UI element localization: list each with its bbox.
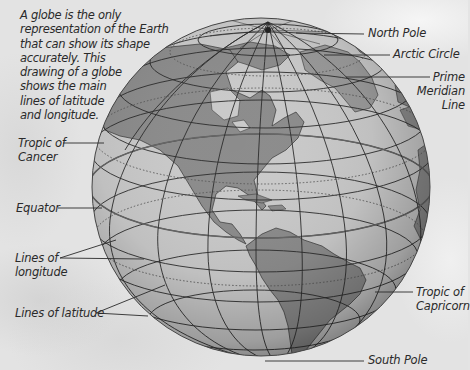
intro-line: A globe is the only <box>20 8 180 22</box>
label-line: longitude <box>15 265 67 279</box>
intro-line: and longitude. <box>20 108 180 122</box>
label-arctic-circle: Arctic Circle <box>393 47 460 61</box>
intro-line: that can show its shape <box>20 37 180 51</box>
intro-line: drawing of a globe <box>20 65 180 79</box>
label-equator: Equator <box>16 201 60 215</box>
label-lines-of-latitude: Lines of latitude <box>15 306 104 320</box>
label-tropic-of-cancer: Tropic of Cancer <box>18 136 66 164</box>
label-line: Line <box>417 98 465 112</box>
label-lines-of-longitude: Lines of longitude <box>15 251 67 279</box>
intro-line: shows the main <box>20 79 180 93</box>
label-north-pole: North Pole <box>368 26 426 40</box>
label-line: Prime <box>417 70 465 84</box>
intro-paragraph: A globe is the only representation of th… <box>20 8 180 122</box>
label-line: Tropic of <box>416 285 470 299</box>
label-south-pole: South Pole <box>368 353 427 367</box>
label-line: Lines of <box>15 251 67 265</box>
label-prime-meridian: Prime Meridian Line <box>417 70 465 112</box>
intro-line: accurately. This <box>20 51 180 65</box>
label-line: Meridian <box>417 84 465 98</box>
label-line: Capricorn <box>416 299 470 313</box>
label-line: Tropic of <box>18 136 66 150</box>
intro-line: representation of the Earth <box>20 22 180 36</box>
label-line: Cancer <box>18 150 66 164</box>
label-tropic-of-capricorn: Tropic of Capricorn <box>416 285 470 313</box>
intro-line: lines of latitude <box>20 94 180 108</box>
